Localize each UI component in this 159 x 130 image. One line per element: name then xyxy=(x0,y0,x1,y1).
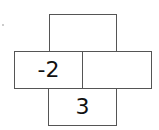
middle-left-cell-value: -2 xyxy=(15,59,82,81)
middle-left-cell[interactable]: -2 xyxy=(14,51,83,89)
middle-right-cell[interactable] xyxy=(82,51,152,89)
bottom-cell[interactable]: 3 xyxy=(48,88,117,126)
bottom-cell-value: 3 xyxy=(49,96,116,118)
top-cell[interactable] xyxy=(49,14,117,52)
stray-mark xyxy=(2,24,4,26)
